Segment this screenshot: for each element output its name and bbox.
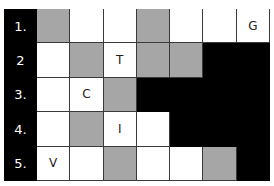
blocked-cell (170, 112, 203, 146)
grid-cell[interactable] (70, 147, 103, 181)
blocked-cell (237, 112, 270, 146)
blocked-cell (237, 147, 270, 181)
grid-cell[interactable]: V (37, 147, 70, 181)
row-label: 2 (4, 43, 37, 77)
grid-cell[interactable]: C (70, 78, 103, 112)
blocked-cell (237, 78, 270, 112)
grid-cell[interactable] (203, 9, 236, 43)
blocked-cell (237, 43, 270, 77)
grid-cell[interactable] (170, 9, 203, 43)
grid-cell[interactable] (37, 112, 70, 146)
blocked-cell (203, 112, 236, 146)
grid-cell[interactable] (104, 78, 137, 112)
grid-cell[interactable] (170, 147, 203, 181)
grid-cell[interactable] (137, 43, 170, 77)
grid-cell[interactable] (70, 9, 103, 43)
grid-cell[interactable] (203, 147, 236, 181)
row-label: 1. (4, 9, 37, 43)
grid-cell[interactable] (104, 9, 137, 43)
row-label: 3. (4, 78, 37, 112)
grid-cell[interactable] (70, 112, 103, 146)
grid-cell[interactable]: I (104, 112, 137, 146)
blocked-cell (203, 43, 236, 77)
grid-cell[interactable]: T (104, 43, 137, 77)
grid-cell[interactable] (37, 43, 70, 77)
grid-cell[interactable] (137, 147, 170, 181)
grid-cell[interactable]: G (237, 9, 270, 43)
grid-cell[interactable] (70, 43, 103, 77)
grid-cell[interactable] (37, 78, 70, 112)
grid-cell[interactable] (137, 112, 170, 146)
blocked-cell (137, 78, 170, 112)
grid-cell[interactable] (137, 9, 170, 43)
grid-cell[interactable] (104, 147, 137, 181)
grid-cell[interactable] (170, 43, 203, 77)
blocked-cell (203, 78, 236, 112)
grid-cell[interactable] (37, 9, 70, 43)
blocked-cell (170, 78, 203, 112)
row-label: 4. (4, 112, 37, 146)
word-puzzle-grid: 1.G2T3.C4.I5.V (4, 9, 270, 181)
row-label: 5. (4, 147, 37, 181)
